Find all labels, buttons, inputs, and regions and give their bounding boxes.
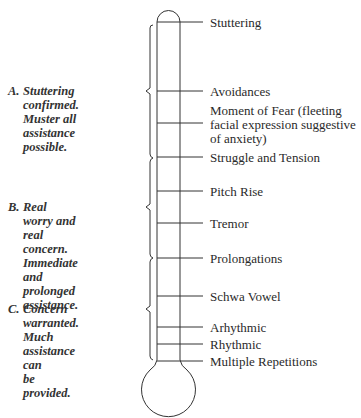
group-letter: B. <box>8 200 19 214</box>
level-label: Prolongations <box>210 252 282 266</box>
level-label: Tremor <box>210 217 249 231</box>
level-label: Struggle and Tension <box>210 151 320 165</box>
brace-b <box>146 158 153 258</box>
group-letter: A. <box>8 84 19 98</box>
group-text: Real worry and real concern. Immediate a… <box>23 200 78 312</box>
level-label: Avoidances <box>210 85 270 99</box>
level-label: Rhythmic <box>210 338 261 352</box>
brace-c <box>146 258 153 360</box>
level-label: Multiple Repetitions <box>210 355 317 369</box>
level-label: Arhythmic <box>210 321 266 335</box>
level-label: Moment of Fear (fleeting facial expressi… <box>210 104 356 146</box>
group-text: Stuttering confirmed. Muster all assista… <box>23 84 79 154</box>
level-label: Schwa Vowel <box>210 290 281 304</box>
brace-a <box>146 25 153 158</box>
thermometer-tube <box>157 11 180 361</box>
thermometer-bulb <box>142 360 196 417</box>
group-letter: C. <box>8 302 19 316</box>
level-label: Pitch Rise <box>210 185 263 199</box>
group-text: Concern warranted. Much assistance can b… <box>23 302 79 400</box>
level-label: Stuttering <box>210 16 261 30</box>
